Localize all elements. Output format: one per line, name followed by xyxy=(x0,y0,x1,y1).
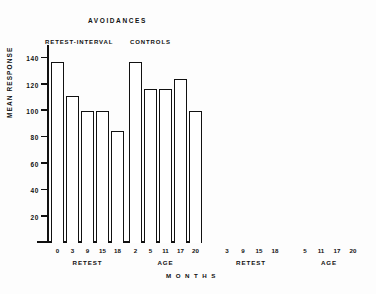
bar xyxy=(144,89,157,243)
x-axis-tick-label: 15 xyxy=(256,247,263,254)
x-axis-title: M O N T H S xyxy=(166,272,217,279)
x-axis-group-name: RETEST xyxy=(73,259,103,266)
x-axis-tick-label: 18 xyxy=(114,247,121,254)
x-axis-tick-label: 18 xyxy=(272,247,279,254)
x-axis-tick-label: 9 xyxy=(86,247,89,254)
bar xyxy=(111,131,124,243)
x-axis-tick-label: 17 xyxy=(177,247,184,254)
y-axis-tick-label: 20 xyxy=(31,213,39,220)
bar-group-avoidances xyxy=(47,45,187,243)
bar xyxy=(159,89,172,243)
y-axis-tick-label: 60 xyxy=(31,160,39,167)
y-axis-tick-label: 140 xyxy=(26,55,39,62)
x-axis-tick-label: 17 xyxy=(334,247,341,254)
y-axis-title: MEAN RESPONSE xyxy=(6,47,13,118)
y-axis-tick-label: 120 xyxy=(26,81,39,88)
x-axis-tick-label: 3 xyxy=(71,247,74,254)
y-axis-tick-label: 80 xyxy=(31,134,39,141)
figure-canvas: AVOIDANCES RETEST-INTERVAL CONTROLS MEAN… xyxy=(0,0,376,294)
x-axis-tick-label: 2 xyxy=(134,247,137,254)
x-axis-tick-label: 20 xyxy=(350,247,357,254)
x-axis-tick-label: 20 xyxy=(192,247,199,254)
y-axis-tick-label: 100 xyxy=(26,108,39,115)
y-axis-tick-label: 40 xyxy=(31,187,39,194)
bar xyxy=(81,111,94,243)
bar xyxy=(174,79,187,243)
x-axis-tick-label: 3 xyxy=(225,247,228,254)
x-axis-tick-label: 11 xyxy=(318,247,325,254)
x-axis-group-name: AGE xyxy=(157,259,173,266)
x-axis-group-name: AGE xyxy=(321,259,337,266)
plot-area-avoidances: 20406080100120140 xyxy=(47,55,187,243)
x-axis-tick-label: 9 xyxy=(241,247,244,254)
x-axis-tick-label: 5 xyxy=(149,247,152,254)
x-axis-group-name: RETEST xyxy=(236,259,266,266)
x-axis-tick-label: 0 xyxy=(56,247,59,254)
bar xyxy=(96,111,109,243)
x-axis-tick-label: 15 xyxy=(99,247,106,254)
panel-title-avoidances: AVOIDANCES xyxy=(88,17,147,24)
x-axis-tick-label: 11 xyxy=(162,247,169,254)
bar xyxy=(66,96,79,243)
bar xyxy=(51,62,64,243)
x-axis-tick-label: 5 xyxy=(303,247,306,254)
bar xyxy=(129,62,142,243)
